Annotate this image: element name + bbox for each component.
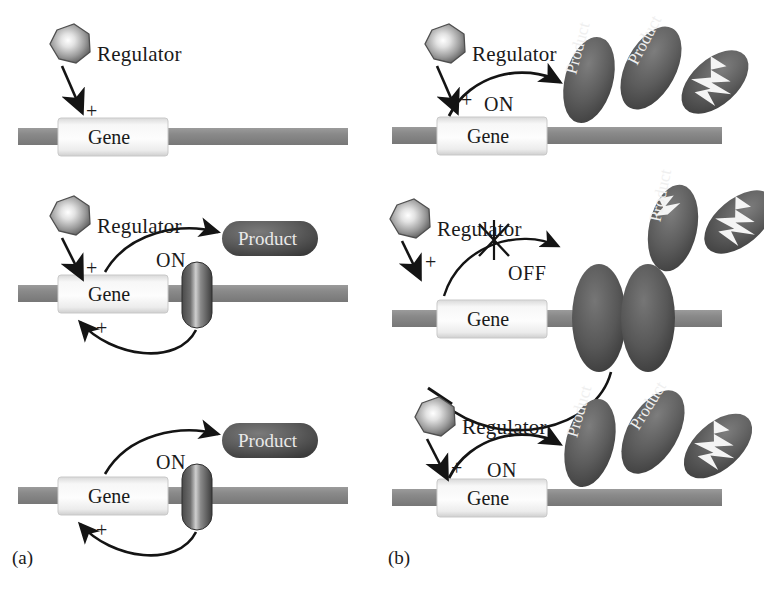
gene-label: Gene xyxy=(88,284,130,304)
state-label-on: ON xyxy=(156,250,186,270)
panel-a-row-2 xyxy=(18,196,348,353)
degraded-product-oval xyxy=(670,38,760,126)
regulator-label: Regulator xyxy=(97,216,182,237)
product-label: Product xyxy=(238,229,297,248)
state-label-on: ON xyxy=(156,452,186,472)
regulator-label: Regulator xyxy=(437,219,522,240)
regulator-label: Regulator xyxy=(97,44,182,65)
panel-a-row-3 xyxy=(18,423,348,555)
activation-sign: + xyxy=(451,458,462,478)
figure-canvas: Regulator + Gene Regulator + Gene ON Pro… xyxy=(0,0,764,600)
bound-protein-dimer xyxy=(572,264,675,372)
feedback-sign: + xyxy=(96,318,107,338)
activation-sign: + xyxy=(461,90,472,110)
regulator-label: Regulator xyxy=(472,44,557,65)
bound-protein xyxy=(182,464,212,530)
degraded-product-oval xyxy=(693,178,764,266)
regulator-shape xyxy=(50,196,90,235)
feedback-sign: + xyxy=(96,520,107,540)
gene-label: Gene xyxy=(88,486,130,506)
regulator-activation-arrow xyxy=(427,439,447,478)
gene-label: Gene xyxy=(467,126,509,146)
regulator-activation-arrow xyxy=(62,238,82,278)
regulator-activation-arrow xyxy=(62,66,82,112)
product-oval xyxy=(554,31,623,128)
panel-a-row-1 xyxy=(18,24,348,156)
gene-label: Gene xyxy=(467,488,509,508)
product-oval xyxy=(556,394,624,493)
panel-label-a: (a) xyxy=(12,548,33,567)
state-label-on: ON xyxy=(487,460,517,480)
regulator-shape xyxy=(425,24,465,63)
activation-sign: + xyxy=(86,101,97,121)
gene-label: Gene xyxy=(88,127,130,147)
activation-sign: + xyxy=(425,252,436,272)
product-label: Product xyxy=(238,431,297,450)
panel-label-b: (b) xyxy=(388,548,410,567)
activation-sign: + xyxy=(86,258,97,278)
state-label-on: ON xyxy=(484,94,514,114)
bound-protein xyxy=(182,262,212,328)
regulator-shape xyxy=(50,24,90,63)
degraded-product-oval xyxy=(672,401,764,490)
gene-label: Gene xyxy=(467,309,509,329)
regulator-shape xyxy=(390,199,430,238)
regulator-label: Regulator xyxy=(462,417,547,438)
state-label-off: OFF xyxy=(508,263,547,283)
regulator-activation-arrow xyxy=(402,241,420,278)
